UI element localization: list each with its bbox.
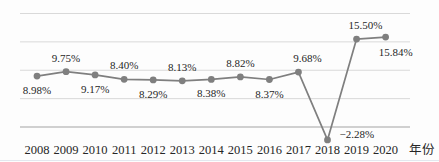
x-axis-title: 年份 (409, 143, 435, 157)
x-tick-label: 2015 (228, 143, 253, 157)
data-point (208, 76, 215, 83)
data-point-label: 9.68% (293, 52, 321, 64)
bottom-divider (0, 160, 439, 161)
data-point (92, 72, 99, 79)
data-point-label: 8.29% (139, 88, 167, 100)
x-tick-label: 2019 (344, 143, 369, 157)
data-point (34, 73, 41, 80)
x-tick-label: 2010 (83, 143, 108, 157)
x-tick-label: 2016 (257, 143, 282, 157)
data-point-label: 8.82% (226, 57, 254, 69)
data-point-label: 8.40% (110, 59, 138, 71)
data-point-label: 8.98% (23, 84, 51, 96)
data-point-label: 8.38% (197, 87, 225, 99)
data-point-label: 8.13% (168, 61, 196, 73)
line-chart: 8.98%9.75%9.17%8.40%8.29%8.13%8.38%8.82%… (0, 0, 439, 162)
data-point-label: 15.84% (379, 46, 413, 58)
data-point (237, 74, 244, 81)
x-tick-label: 2017 (286, 143, 311, 157)
data-point-label: 15.50% (349, 19, 383, 31)
x-tick-label: 2008 (25, 143, 50, 157)
data-point (382, 34, 389, 41)
data-point-label: 8.37% (255, 88, 283, 100)
x-tick-label: 2013 (170, 143, 195, 157)
x-tick-label: 2012 (141, 143, 166, 157)
x-tick-label: 2009 (54, 143, 79, 157)
x-tick-label: 2011 (112, 143, 137, 157)
data-point (121, 76, 128, 83)
chart-canvas: 8.98%9.75%9.17%8.40%8.29%8.13%8.38%8.82%… (0, 0, 439, 162)
data-point-label: 9.17% (81, 83, 109, 95)
data-point (266, 76, 273, 83)
data-point (295, 69, 302, 76)
data-point (179, 77, 186, 84)
data-point (353, 36, 360, 43)
data-point-label: 9.75% (52, 52, 80, 64)
x-tick-label: 2020 (373, 143, 398, 157)
data-point (63, 68, 70, 75)
data-point-label: −2.28% (340, 128, 375, 140)
data-point (150, 77, 157, 84)
x-tick-label: 2018 (315, 143, 340, 157)
x-tick-label: 2014 (199, 143, 225, 157)
